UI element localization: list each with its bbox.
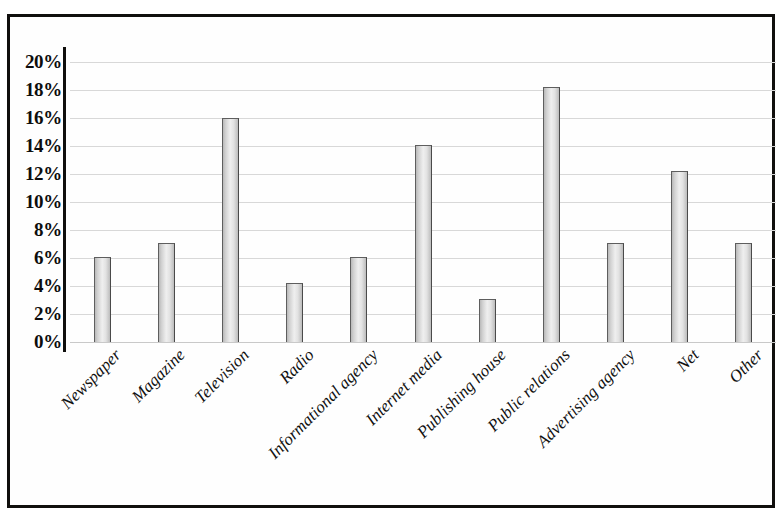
bar bbox=[543, 87, 560, 342]
bar bbox=[415, 145, 432, 342]
bar-chart-figure: 0%2%4%6%8%10%12%14%16%18%20% NewspaperMa… bbox=[0, 0, 783, 515]
y-axis-tick-label: 10% bbox=[6, 192, 62, 211]
y-axis-tick-label: 8% bbox=[6, 220, 62, 239]
x-axis-category-label: Net bbox=[673, 346, 702, 375]
plot-area bbox=[70, 62, 776, 342]
y-axis-tick-label: 18% bbox=[6, 80, 62, 99]
chart-outer-frame: 0%2%4%6%8%10%12%14%16%18%20% NewspaperMa… bbox=[7, 14, 775, 508]
bar bbox=[94, 257, 111, 342]
bar bbox=[286, 283, 303, 342]
bar bbox=[350, 257, 367, 342]
y-axis-tick-label: 6% bbox=[6, 248, 62, 267]
bar bbox=[671, 171, 688, 342]
x-axis-category-label: Television bbox=[192, 346, 252, 406]
x-axis-category-label: Radio bbox=[276, 346, 317, 387]
bar bbox=[479, 299, 496, 342]
x-axis-category-labels: NewspaperMagazineTelevisionRadioInformat… bbox=[70, 346, 776, 515]
bar bbox=[222, 118, 239, 342]
y-axis-tick-label: 20% bbox=[6, 52, 62, 71]
gridline bbox=[70, 342, 776, 343]
gridline bbox=[70, 90, 776, 91]
y-axis-tick-label: 12% bbox=[6, 164, 62, 183]
y-axis-tick-label: 14% bbox=[6, 136, 62, 155]
bar bbox=[158, 243, 175, 342]
x-axis-category-label: Informational agency bbox=[265, 346, 381, 462]
bar bbox=[735, 243, 752, 342]
bar bbox=[607, 243, 624, 342]
x-axis-category-label: Magazine bbox=[129, 346, 188, 405]
y-axis-tick-label: 2% bbox=[6, 304, 62, 323]
y-axis-tick-label: 16% bbox=[6, 108, 62, 127]
y-axis-tick-label: 0% bbox=[6, 332, 62, 351]
y-axis-tick-labels: 0%2%4%6%8%10%12%14%16%18%20% bbox=[10, 62, 62, 342]
gridline bbox=[70, 118, 776, 119]
gridline bbox=[70, 62, 776, 63]
y-axis-line bbox=[63, 47, 66, 352]
y-axis-tick-label: 4% bbox=[6, 276, 62, 295]
x-axis-category-label: Newspaper bbox=[58, 346, 124, 412]
x-axis-category-label: Other bbox=[726, 346, 766, 386]
